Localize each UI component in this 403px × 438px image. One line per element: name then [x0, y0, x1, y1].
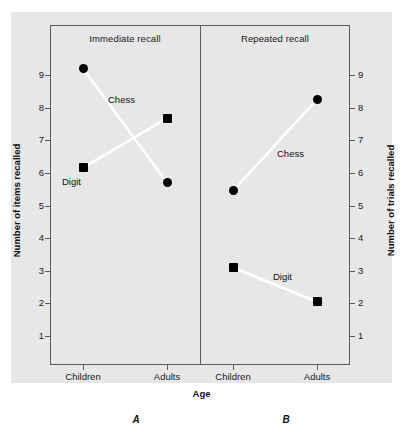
series-label-chess-a: Chess [108, 94, 135, 105]
y-tick-mark-left [45, 303, 50, 304]
panel-letter-a: A [106, 414, 166, 425]
y-tick-label-right-2: 2 [358, 297, 372, 308]
y-tick-mark-left [45, 206, 50, 207]
y-tick-mark-left [45, 140, 50, 141]
x-tick-mark [233, 365, 234, 370]
y-tick-label-right-6: 6 [358, 167, 372, 178]
data-point-b-digit-children [229, 263, 238, 272]
y-tick-label-right-9: 9 [358, 69, 372, 80]
y-tick-mark-right [350, 336, 355, 337]
x-tick-label-b-adults: Adults [287, 371, 347, 382]
x-tick-label-a-adults: Adults [137, 371, 197, 382]
x-axis-title: Age [0, 388, 403, 399]
y-axis-right-title: Number of trials recalled [385, 141, 396, 261]
y-tick-mark-right [350, 108, 355, 109]
y-tick-label-left-2: 2 [30, 297, 44, 308]
y-tick-mark-right [350, 303, 355, 304]
data-point-a-chess-adults [163, 178, 172, 187]
y-tick-label-left-8: 8 [30, 102, 44, 113]
x-tick-mark [317, 365, 318, 370]
y-tick-label-left-6: 6 [30, 167, 44, 178]
series-label-digit-b: Digit [273, 271, 292, 282]
x-tick-mark [167, 365, 168, 370]
y-axis-left-title: Number of items recalled [11, 141, 22, 261]
panel-b-title: Repeated recall [200, 33, 350, 44]
y-tick-mark-right [350, 75, 355, 76]
y-tick-mark-right [350, 238, 355, 239]
data-point-a-digit-adults [163, 114, 172, 123]
y-tick-mark-left [45, 271, 50, 272]
x-tick-label-b-children: Children [203, 371, 263, 382]
y-tick-mark-left [45, 108, 50, 109]
y-tick-mark-right [350, 140, 355, 141]
series-label-chess-b: Chess [277, 148, 304, 159]
y-tick-label-left-9: 9 [30, 69, 44, 80]
data-point-b-chess-children [229, 186, 238, 195]
x-tick-label-a-children: Children [53, 371, 113, 382]
data-point-a-chess-children [79, 64, 88, 73]
y-tick-label-right-3: 3 [358, 265, 372, 276]
y-tick-label-left-3: 3 [30, 265, 44, 276]
y-tick-mark-right [350, 173, 355, 174]
y-tick-mark-left [45, 173, 50, 174]
y-tick-label-left-4: 4 [30, 232, 44, 243]
y-tick-mark-left [45, 238, 50, 239]
y-tick-label-left-1: 1 [30, 330, 44, 341]
data-point-b-digit-adults [313, 297, 322, 306]
panel-letter-b: B [256, 414, 316, 425]
data-point-b-chess-adults [313, 95, 322, 104]
x-tick-mark [83, 365, 84, 370]
panel-divider [200, 25, 201, 365]
y-tick-label-right-1: 1 [358, 330, 372, 341]
y-tick-mark-right [350, 271, 355, 272]
y-tick-label-right-4: 4 [358, 232, 372, 243]
y-tick-label-right-7: 7 [358, 134, 372, 145]
y-tick-label-left-7: 7 [30, 134, 44, 145]
panel-a-title: Immediate recall [50, 33, 200, 44]
y-tick-label-right-5: 5 [358, 200, 372, 211]
y-tick-label-left-5: 5 [30, 200, 44, 211]
y-tick-mark-right [350, 206, 355, 207]
figure-container: Immediate recall Repeated recall Number … [0, 0, 403, 438]
y-tick-label-right-8: 8 [358, 102, 372, 113]
y-tick-mark-left [45, 336, 50, 337]
y-tick-mark-left [45, 75, 50, 76]
data-point-a-digit-children [79, 163, 88, 172]
series-label-digit-a: Digit [62, 176, 81, 187]
